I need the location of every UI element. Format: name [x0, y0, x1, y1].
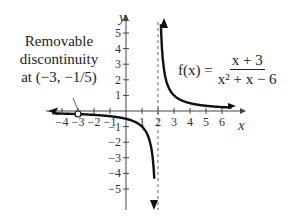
function-lhs: f(x) =	[178, 62, 213, 79]
svg-text:−1: −1	[108, 120, 121, 134]
svg-text:−2: −2	[88, 115, 101, 129]
right-arrow-icon	[228, 103, 236, 109]
svg-text:2: 2	[115, 73, 121, 87]
removable-discontinuity-hole	[75, 111, 81, 117]
svg-text:5: 5	[115, 26, 121, 40]
svg-text:4: 4	[115, 42, 121, 56]
svg-text:−4: −4	[108, 166, 121, 180]
annotation-text: Removable discontinuity at (−3, −1/5)	[5, 32, 113, 86]
svg-text:1: 1	[115, 88, 121, 102]
svg-text:−3: −3	[108, 151, 121, 165]
svg-text:3: 3	[171, 115, 177, 129]
svg-text:−4: −4	[56, 115, 69, 129]
function-denominator: x² + x − 6	[218, 70, 277, 88]
annotation-line-2: discontinuity	[5, 50, 113, 68]
function-label: f(x) = x + 3 x² + x − 6	[178, 52, 277, 88]
function-fraction: x + 3 x² + x − 6	[218, 52, 277, 88]
svg-text:−2: −2	[108, 135, 121, 149]
svg-text:6: 6	[219, 115, 225, 129]
x-axis-label: x	[237, 117, 245, 133]
svg-text:4: 4	[187, 115, 193, 129]
annotation-leader	[73, 98, 78, 110]
up-arrow-icon	[160, 18, 168, 28]
down-arrow-icon	[150, 200, 158, 210]
annotation-line-3: at (−3, −1/5)	[5, 68, 113, 86]
function-numerator: x + 3	[230, 52, 265, 70]
svg-text:3: 3	[115, 57, 121, 71]
svg-text:2: 2	[155, 115, 161, 129]
y-axis-label: y	[117, 9, 126, 25]
svg-text:−5: −5	[108, 182, 121, 196]
svg-text:5: 5	[203, 115, 209, 129]
x-axis-arrow-icon	[240, 108, 246, 114]
annotation-line-1: Removable	[5, 32, 113, 50]
